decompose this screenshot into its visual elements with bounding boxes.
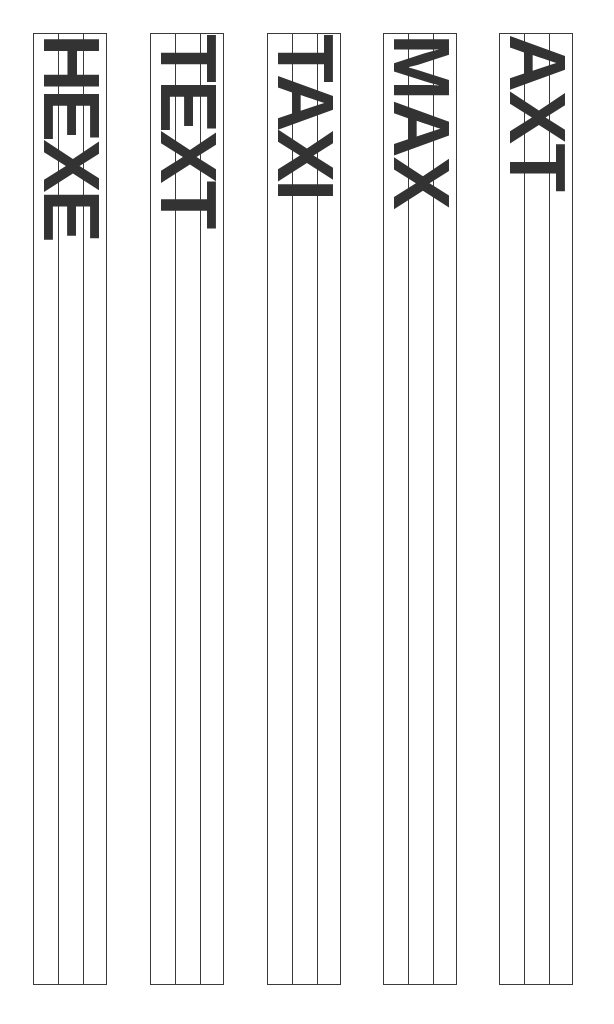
column-2-label: TEXT bbox=[151, 34, 225, 226]
column-1-divider-b bbox=[83, 34, 84, 984]
column-3-label: TAXI bbox=[268, 34, 342, 198]
column-4-divider-a bbox=[408, 34, 409, 984]
column-1-label: HEXE bbox=[34, 34, 108, 240]
column-panel-4[interactable]: MAX bbox=[383, 33, 457, 985]
column-5-label-area: AXT bbox=[500, 34, 574, 294]
column-panel-5[interactable]: AXT bbox=[499, 33, 573, 985]
column-2-divider-a bbox=[175, 34, 176, 984]
column-panel-3[interactable]: TAXI bbox=[267, 33, 341, 985]
column-4-label-area: MAX bbox=[384, 34, 458, 294]
column-5-divider-b bbox=[549, 34, 550, 984]
column-4-label: MAX bbox=[384, 34, 458, 209]
worksheet-canvas: HEXE TEXT TAXI MAX AXT bbox=[0, 0, 614, 1024]
column-3-divider-b bbox=[317, 34, 318, 984]
column-1-label-area: HEXE bbox=[34, 34, 108, 294]
column-3-label-area: TAXI bbox=[268, 34, 342, 294]
column-3-divider-a bbox=[292, 34, 293, 984]
column-1-divider-a bbox=[58, 34, 59, 984]
column-panel-2[interactable]: TEXT bbox=[150, 33, 224, 985]
column-4-divider-b bbox=[433, 34, 434, 984]
column-5-label: AXT bbox=[500, 34, 574, 191]
column-5-divider-a bbox=[524, 34, 525, 984]
column-2-label-area: TEXT bbox=[151, 34, 225, 294]
column-panel-1[interactable]: HEXE bbox=[33, 33, 107, 985]
column-2-divider-b bbox=[200, 34, 201, 984]
